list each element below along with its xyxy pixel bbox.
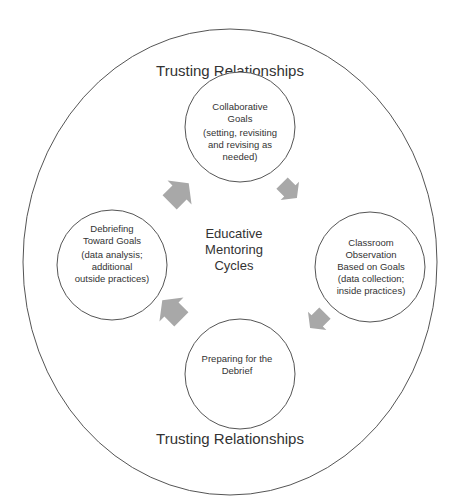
bottom-relationships-label: Trusting Relationships — [156, 430, 304, 447]
left-node-line-2: Toward Goals — [83, 235, 141, 246]
top-node-line-5: needed) — [223, 151, 258, 162]
left-node-line-4: additional — [92, 261, 133, 272]
right-node-line-2: Observation — [345, 249, 396, 260]
center-line-2: Mentoring — [205, 242, 263, 257]
top-node-line-3: (setting, revisiting — [203, 127, 277, 138]
right-node-line-3: Based on Goals — [337, 261, 405, 272]
right-node-line-1: Classroom — [348, 237, 393, 248]
right-node-line-5: inside practices) — [337, 285, 406, 296]
center-line-1: Educative — [205, 226, 262, 241]
arrow-right-to-bottom — [301, 304, 334, 337]
center-line-3: Cycles — [214, 258, 254, 273]
mentoring-cycle-diagram: Trusting Relationships Trusting Relation… — [0, 0, 460, 501]
top-node-line-1: Collaborative — [212, 101, 267, 112]
bottom-node-line-1: Preparing for the — [202, 353, 273, 364]
left-node-line-1: Debriefing — [90, 223, 133, 234]
top-node-line-2: Goals — [228, 113, 253, 124]
left-node-line-3: (data analysis; — [81, 249, 142, 260]
top-node-line-4: and revising as — [208, 139, 272, 150]
bottom-node-line-2: Debrief — [222, 365, 253, 376]
arrow-top-to-right — [273, 174, 306, 207]
left-node-line-5: outside practices) — [75, 273, 149, 284]
arrow-left-to-top — [158, 171, 201, 214]
right-node-line-4: (data collection; — [338, 273, 405, 284]
